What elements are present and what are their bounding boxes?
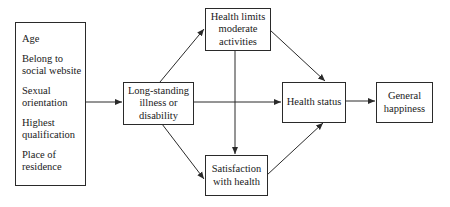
edge-illness-to-health-limits xyxy=(160,29,204,82)
covariate-label: Sexual xyxy=(22,85,68,98)
edge-health-limits-to-health-status xyxy=(270,30,325,81)
node-illness: Long-standing illness or disability xyxy=(123,82,194,125)
node-label: illness or xyxy=(139,97,177,110)
covariate-social-website: Belong to social website xyxy=(22,53,81,78)
node-label: with health xyxy=(213,176,260,189)
node-happiness: General happiness xyxy=(376,82,433,123)
covariate-qualification: Highest qualification xyxy=(22,117,75,142)
node-label: moderate xyxy=(218,23,257,36)
node-health-status: Health status xyxy=(282,82,346,123)
node-label: Satisfaction xyxy=(212,163,262,176)
node-label: happiness xyxy=(384,103,425,116)
covariate-residence: Place of residence xyxy=(22,149,62,174)
node-label: Long-standing xyxy=(128,85,189,98)
edge-illness-to-satisfaction xyxy=(162,124,204,179)
node-label: General xyxy=(388,90,421,103)
covariate-label: orientation xyxy=(22,97,68,110)
node-health-limits: Health limits moderate activities xyxy=(205,8,271,51)
covariate-label: Highest xyxy=(22,117,75,130)
node-label: disability xyxy=(139,110,178,123)
node-satisfaction: Satisfaction with health xyxy=(205,155,268,196)
covariate-label: Age xyxy=(22,33,40,46)
node-label: Health limits xyxy=(211,11,266,24)
covariate-label: Place of xyxy=(22,149,62,162)
covariate-label: Belong to xyxy=(22,53,81,66)
covariate-sexual-orientation: Sexual orientation xyxy=(22,85,68,110)
covariates-box: Age Belong to social website Sexual orie… xyxy=(15,22,86,186)
node-label: activities xyxy=(219,36,257,49)
covariate-age: Age xyxy=(22,33,40,46)
covariate-label: qualification xyxy=(22,129,75,142)
covariate-label: residence xyxy=(22,161,62,174)
edge-satisfaction-to-health-status xyxy=(267,123,323,175)
covariate-label: social website xyxy=(22,65,81,78)
node-label: Health status xyxy=(287,96,342,109)
